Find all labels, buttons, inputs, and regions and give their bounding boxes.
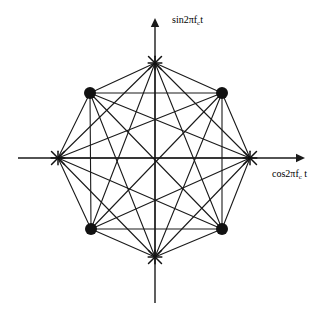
constellation-edge: [90, 93, 91, 229]
x-axis-label: cos2πfc t: [272, 168, 307, 181]
constellation-figure: sin2πfct cos2πfc t: [0, 0, 325, 324]
y-axis-arrowhead-icon: [151, 18, 159, 27]
y-axis-label: sin2πfct: [172, 14, 203, 27]
constellation-point-cross: [243, 151, 257, 165]
constellation-diagram: [0, 0, 325, 324]
y-axis-label-tail: t: [200, 14, 203, 25]
constellation-marker-layer: [51, 56, 257, 264]
constellation-edge: [58, 93, 90, 158]
constellation-edge: [155, 63, 250, 158]
x-axis-label-tail: t: [302, 168, 307, 179]
x-axis-label-main: cos2πf: [272, 168, 299, 179]
constellation-point-filled: [216, 87, 228, 99]
constellation-point-filled: [84, 87, 96, 99]
constellation-point-cross: [148, 56, 162, 70]
x-axis-arrowhead-icon: [296, 154, 305, 162]
constellation-point-cross: [148, 250, 162, 264]
constellation-point-cross: [51, 151, 65, 165]
constellation-edge: [58, 158, 91, 229]
constellation-point-filled: [216, 223, 228, 235]
constellation-point-filled: [85, 223, 97, 235]
constellation-edge: [155, 158, 250, 257]
y-axis-label-main: sin2πf: [172, 14, 197, 25]
